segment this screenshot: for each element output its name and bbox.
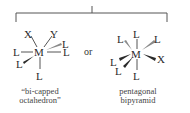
- metal-center: M: [131, 48, 141, 60]
- wedge-bond: [143, 54, 156, 61]
- ligand-l: L: [16, 58, 23, 70]
- coordination-geometry-diagram: X Y L L L M L L “bi-capped octahedron” o…: [0, 0, 190, 113]
- ligand-l: L: [117, 33, 124, 45]
- ligand-l: L: [63, 46, 70, 58]
- caption-line-2: bipyramid: [121, 95, 157, 105]
- ligand-l: L: [133, 28, 140, 40]
- wedge-bond: [119, 54, 131, 61]
- ligand-x: X: [24, 28, 32, 40]
- ligand-l: L: [115, 65, 122, 77]
- wedge-bond: [46, 43, 62, 50]
- pentagonal-bipyramid-structure: L L L M X L L L pentagonal bipyramid: [110, 28, 165, 105]
- ligand-l: L: [13, 46, 20, 58]
- ligand-y: Y: [50, 28, 58, 40]
- wedge-bond: [23, 56, 34, 64]
- ligand-l: L: [36, 70, 43, 82]
- ligand-x: X: [157, 53, 165, 65]
- grouping-bracket: [16, 6, 167, 22]
- or-connector: or: [84, 46, 93, 57]
- ligand-l: L: [154, 33, 161, 45]
- ligand-l: L: [133, 70, 140, 82]
- caption-line-2: octahedron”: [19, 95, 61, 105]
- metal-center: M: [34, 46, 44, 58]
- bicapped-octahedron-structure: X Y L L L M L L “bi-capped octahedron”: [13, 28, 70, 105]
